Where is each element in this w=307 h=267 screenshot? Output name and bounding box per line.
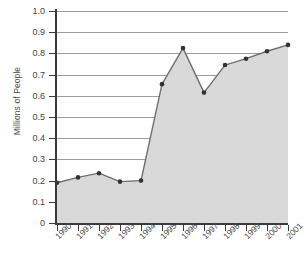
y-axis-tick — [49, 96, 55, 97]
data-point-marker — [223, 63, 228, 68]
y-axis-tick — [49, 53, 55, 54]
y-axis-tick — [49, 181, 55, 182]
y-axis-tick — [49, 75, 55, 76]
plot-area — [57, 11, 288, 223]
data-point-marker — [265, 49, 270, 54]
y-axis-tick-label: 0.9 — [32, 27, 45, 37]
data-point-marker — [160, 82, 165, 87]
y-axis-tick-label: 0.6 — [32, 91, 45, 101]
y-axis-tick-label: 0.8 — [32, 48, 45, 58]
data-point-marker — [139, 178, 144, 183]
area-fill — [57, 45, 288, 223]
y-axis-tick-label: 0.4 — [32, 133, 45, 143]
y-axis-tick-label: 1.0 — [32, 6, 45, 16]
data-point-marker — [202, 90, 207, 95]
data-point-marker — [181, 46, 186, 51]
y-axis-tick-label: 0.2 — [32, 176, 45, 186]
data-point-marker — [118, 179, 123, 184]
y-axis-tick-label: 0.7 — [32, 70, 45, 80]
data-point-marker — [244, 56, 249, 61]
y-axis-tick — [49, 11, 55, 12]
y-axis-line — [55, 9, 57, 225]
y-axis-tick-label: 0 — [40, 218, 45, 228]
y-axis-tick — [49, 117, 55, 118]
y-axis-tick-label: 0.3 — [32, 154, 45, 164]
y-axis-title: Millions of People — [12, 36, 22, 166]
y-axis-tick — [49, 202, 55, 203]
y-axis-tick — [49, 159, 55, 160]
y-axis-tick — [49, 223, 55, 224]
data-point-marker — [286, 43, 291, 48]
data-point-marker — [76, 175, 81, 180]
y-axis-tick — [49, 32, 55, 33]
chart-container: Millions of People 00.10.20.30.40.50.60.… — [0, 0, 307, 267]
y-axis-tick-label: 0.5 — [32, 112, 45, 122]
y-axis-tick — [49, 138, 55, 139]
data-point-marker — [97, 171, 102, 176]
area-series — [57, 11, 288, 223]
y-axis-tick-label: 0.1 — [32, 197, 45, 207]
